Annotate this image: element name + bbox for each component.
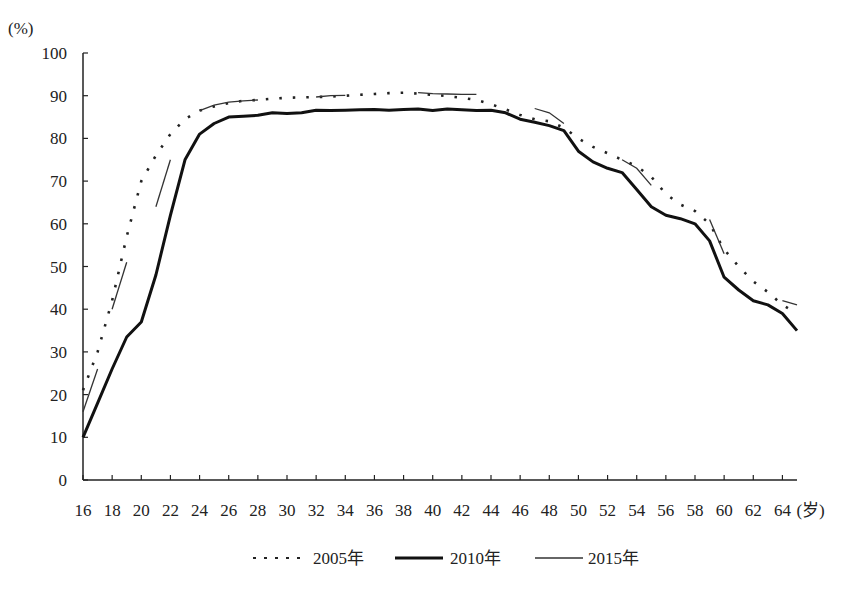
x-tick-label: 38 — [395, 501, 412, 520]
x-tick-label: 60 — [716, 501, 733, 520]
x-tick-label: 48 — [541, 501, 558, 520]
x-tick-label: 28 — [249, 501, 266, 520]
y-tick-label: 40 — [50, 300, 67, 319]
x-tick-label: 16 — [75, 501, 92, 520]
y-tick-label: 90 — [50, 87, 67, 106]
legend: 2005年2010年2015年 — [0, 543, 864, 573]
legend-item: 2010年 — [395, 549, 501, 568]
x-tick-label: 46 — [512, 501, 529, 520]
x-tick-label: 22 — [162, 501, 179, 520]
x-tick-label: 24 — [191, 501, 209, 520]
y-tick-label: 60 — [50, 215, 67, 234]
legend-label: 2005年 — [313, 549, 364, 568]
x-tick-label: 20 — [133, 501, 150, 520]
legend-label: 2010年 — [450, 549, 501, 568]
y-tick-label: 80 — [50, 129, 67, 148]
y-tick-label: 0 — [59, 471, 68, 490]
y-axis-unit: (%) — [8, 19, 33, 38]
y-tick-label: 100 — [42, 44, 68, 63]
x-tick-label: 58 — [687, 501, 704, 520]
series-2005年 — [83, 93, 797, 391]
line-chart: 0102030405060708090100(%)161820222426283… — [0, 0, 864, 540]
x-tick-label: 44 — [483, 501, 501, 520]
x-tick-label: 32 — [308, 501, 325, 520]
x-tick-label: 56 — [657, 501, 674, 520]
legend-item: 2005年 — [253, 549, 364, 568]
legend-label: 2015年 — [588, 549, 639, 568]
legend-item: 2015年 — [535, 549, 639, 568]
x-tick-label: 62 — [745, 501, 762, 520]
y-tick-label: 10 — [50, 428, 67, 447]
series-2015年 — [83, 93, 797, 412]
x-tick-label: 30 — [279, 501, 296, 520]
x-tick-label: 50 — [570, 501, 587, 520]
y-tick-label: 30 — [50, 343, 67, 362]
y-tick-label: 50 — [50, 258, 67, 277]
x-tick-label: 34 — [337, 501, 355, 520]
x-tick-label: 26 — [220, 501, 237, 520]
x-tick-label: 18 — [104, 501, 121, 520]
series-2010年 — [83, 109, 797, 437]
plot-area — [83, 93, 797, 438]
x-tick-label: 42 — [453, 501, 470, 520]
y-tick-label: 70 — [50, 172, 67, 191]
x-tick-label: 64 — [774, 501, 792, 520]
y-tick-label: 20 — [50, 386, 67, 405]
x-axis-unit: (岁) — [796, 501, 824, 520]
x-tick-label: 54 — [628, 501, 646, 520]
x-tick-label: 52 — [599, 501, 616, 520]
x-tick-label: 36 — [366, 501, 383, 520]
x-tick-label: 40 — [424, 501, 441, 520]
